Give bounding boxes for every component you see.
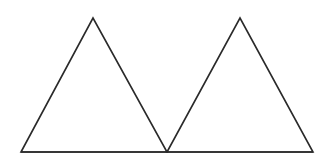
triangle-left (21, 18, 167, 152)
triangle-right (167, 18, 313, 152)
diagram-canvas (0, 0, 334, 164)
two-triangles-diagram (0, 0, 334, 164)
